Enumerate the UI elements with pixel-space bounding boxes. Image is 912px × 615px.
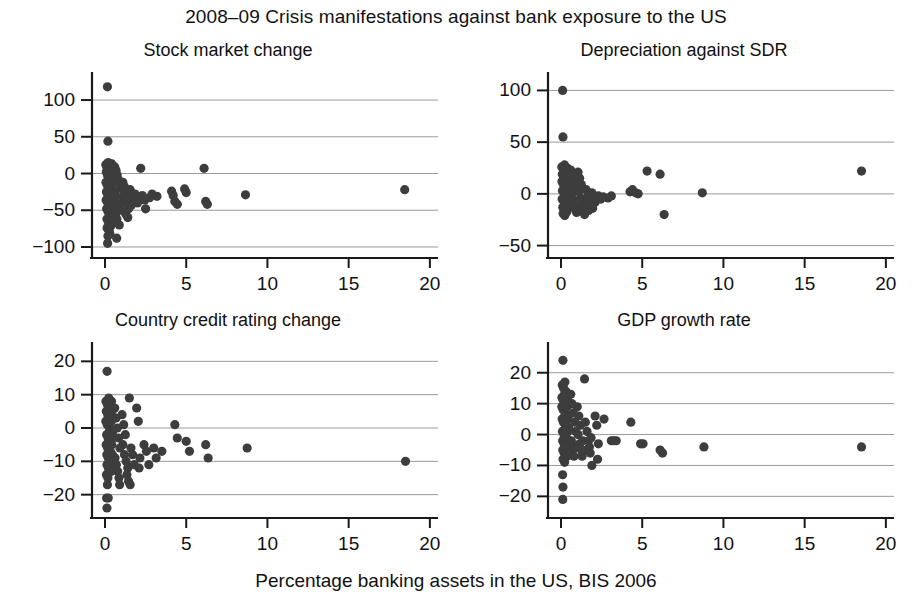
y-tick-label: 10	[54, 384, 75, 405]
data-point	[566, 390, 575, 399]
y-tick-label: −50	[499, 235, 531, 256]
x-tick-label: 0	[556, 273, 567, 294]
data-point	[560, 377, 569, 386]
x-tick-label: 20	[875, 533, 896, 554]
data-point	[152, 192, 161, 201]
data-point	[660, 210, 669, 219]
data-point	[642, 167, 651, 176]
plot-area-country-credit-rating-change: 20100−10−2005101520	[0, 334, 456, 570]
y-tick-label: 0	[520, 424, 531, 445]
x-tick-label: 20	[875, 273, 896, 294]
x-tick-label: 15	[338, 533, 359, 554]
y-tick-label: 50	[510, 131, 531, 152]
y-tick-label: −10	[43, 450, 75, 471]
data-point	[626, 418, 635, 427]
data-point	[102, 503, 111, 512]
panel-country-credit-rating-change: Country credit rating change 20100−10−20…	[0, 310, 456, 570]
data-point	[592, 421, 601, 430]
x-tick-label: 0	[100, 533, 111, 554]
y-tick-label: −50	[43, 199, 75, 220]
y-tick-label: −20	[43, 484, 75, 505]
data-point	[607, 191, 616, 200]
data-point	[201, 440, 210, 449]
data-point	[634, 189, 643, 198]
data-point	[243, 443, 252, 452]
data-point	[594, 439, 603, 448]
y-tick-label: 100	[43, 89, 75, 110]
data-point	[126, 480, 135, 489]
data-point	[182, 437, 191, 446]
y-tick-label: 20	[54, 350, 75, 371]
data-point	[593, 455, 602, 464]
data-point	[134, 417, 143, 426]
figure-container: 2008–09 Crisis manifestations against ba…	[0, 0, 912, 615]
scatter-svg-depreciation-against-sdr: 100500−5005101520	[456, 64, 912, 310]
scatter-svg-country-credit-rating-change: 20100−10−2005101520	[0, 334, 456, 570]
x-tick-label: 15	[794, 273, 815, 294]
plot-area-stock-market-change: 100500−50−10005101520	[0, 64, 456, 310]
data-point	[699, 442, 708, 451]
y-tick-label: −10	[499, 454, 531, 475]
data-point	[115, 220, 124, 229]
data-point	[141, 204, 150, 213]
x-tick-label: 10	[713, 273, 734, 294]
data-point	[558, 482, 567, 491]
y-tick-label: 10	[510, 393, 531, 414]
x-tick-label: 10	[257, 273, 278, 294]
panel-title-gdp-growth-rate: GDP growth rate	[456, 310, 912, 331]
data-point	[586, 433, 595, 442]
panel-title-depreciation-against-sdr: Depreciation against SDR	[456, 40, 912, 61]
x-tick-label: 5	[637, 533, 648, 554]
data-point	[586, 448, 595, 457]
data-point	[144, 460, 153, 469]
x-tick-label: 5	[181, 273, 192, 294]
data-point	[857, 442, 866, 451]
data-point	[173, 433, 182, 442]
data-point	[103, 137, 112, 146]
data-point	[170, 420, 179, 429]
data-point	[132, 403, 141, 412]
y-tick-label: 50	[54, 126, 75, 147]
plot-area-gdp-growth-rate: 20100−10−2005101520	[456, 334, 912, 570]
panel-title-country-credit-rating-change: Country credit rating change	[0, 310, 456, 331]
data-point	[558, 356, 567, 365]
data-point	[103, 367, 112, 376]
data-point	[125, 393, 134, 402]
data-point	[560, 458, 569, 467]
data-point	[123, 213, 132, 222]
data-point	[103, 480, 112, 489]
data-point	[655, 170, 664, 179]
y-tick-label: 0	[64, 417, 75, 438]
data-point	[182, 188, 191, 197]
x-tick-label: 15	[338, 273, 359, 294]
data-point	[599, 414, 608, 423]
data-point	[580, 374, 589, 383]
data-point	[558, 495, 567, 504]
data-point	[112, 234, 121, 243]
data-point	[135, 453, 144, 462]
data-point	[558, 86, 567, 95]
data-point	[241, 190, 250, 199]
data-point	[149, 443, 158, 452]
data-point	[110, 403, 119, 412]
figure-title: 2008–09 Crisis manifestations against ba…	[0, 6, 912, 28]
data-point	[157, 447, 166, 456]
y-tick-label: 0	[520, 183, 531, 204]
data-point	[199, 164, 208, 173]
x-axis-label: Percentage banking assets in the US, BIS…	[0, 570, 912, 592]
data-point	[104, 493, 113, 502]
panel-title-stock-market-change: Stock market change	[0, 40, 456, 61]
y-tick-label: 0	[64, 163, 75, 184]
data-point	[561, 208, 570, 217]
data-point	[638, 439, 647, 448]
scatter-svg-gdp-growth-rate: 20100−10−2005101520	[456, 334, 912, 570]
data-point	[857, 167, 866, 176]
x-tick-label: 20	[419, 533, 440, 554]
x-tick-label: 20	[419, 273, 440, 294]
data-point	[204, 453, 213, 462]
x-tick-label: 0	[100, 273, 111, 294]
data-point	[117, 410, 126, 419]
data-point	[581, 418, 590, 427]
data-point	[118, 440, 127, 449]
data-point	[136, 164, 145, 173]
